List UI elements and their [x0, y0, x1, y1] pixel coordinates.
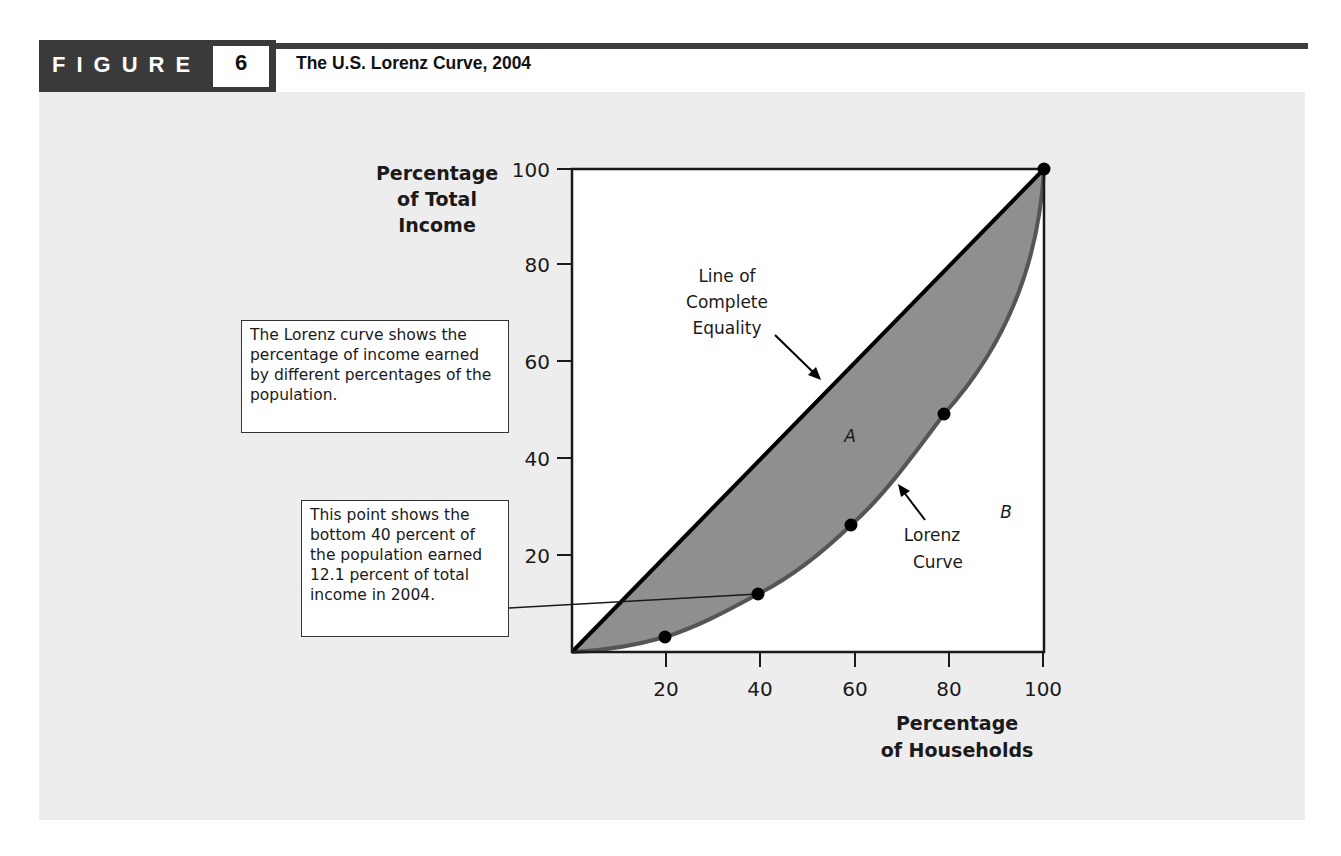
x-tick-100: 100 — [1024, 677, 1062, 701]
y-tick-60: 60 — [525, 350, 550, 374]
region-a-label: A — [843, 426, 856, 446]
y-axis-title-line1: Percentage — [376, 162, 498, 184]
lorenz-label-line1: Lorenz — [904, 525, 960, 545]
y-tick-80: 80 — [525, 253, 550, 277]
callout-lorenz-explanation: The Lorenz curve shows the percentage of… — [241, 320, 509, 433]
x-tick-80: 80 — [936, 677, 961, 701]
lorenz-label-line2: Curve — [913, 552, 963, 572]
point-80 — [938, 408, 951, 421]
x-tick-20: 20 — [653, 677, 678, 701]
equality-label-line1: Line of — [698, 266, 756, 286]
x-axis-title-line2: of Households — [881, 739, 1034, 761]
point-40 — [752, 588, 765, 601]
point-60 — [845, 519, 858, 532]
point-100 — [1038, 163, 1051, 176]
y-tick-40: 40 — [525, 447, 550, 471]
x-axis-title-line1: Percentage — [896, 712, 1018, 734]
x-tick-60: 60 — [842, 677, 867, 701]
callout-40-percent-point: This point shows the bottom 40 percent o… — [301, 500, 509, 637]
y-axis-ticks — [557, 169, 572, 555]
equality-label-line3: Equality — [693, 318, 762, 338]
y-axis-title-line3: Income — [398, 214, 476, 236]
x-tick-40: 40 — [747, 677, 772, 701]
lorenz-chart: 100 80 60 40 20 20 40 60 80 100 Percenta… — [0, 0, 1341, 856]
x-axis-ticks — [666, 652, 1043, 667]
point-20 — [659, 631, 672, 644]
equality-label-line2: Complete — [686, 292, 768, 312]
y-tick-20: 20 — [525, 544, 550, 568]
y-axis-title-line2: of Total — [397, 188, 477, 210]
y-tick-100: 100 — [512, 158, 550, 182]
region-b-label: B — [1000, 502, 1012, 522]
